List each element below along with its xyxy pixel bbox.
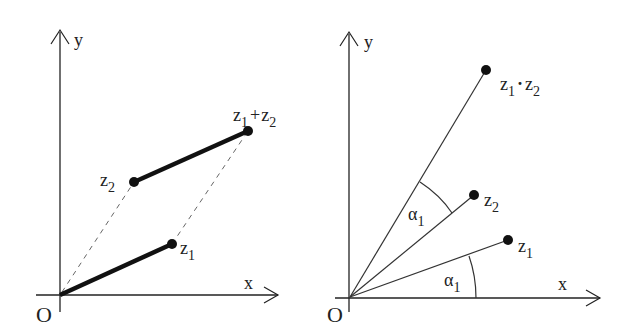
- label-z1: z1: [180, 238, 195, 263]
- point-product: [481, 65, 491, 75]
- label-sum: z1+z2: [233, 105, 276, 130]
- vector-z2-translated: [134, 131, 248, 182]
- label-product: z1·z2: [500, 74, 540, 99]
- angle-arc-upper: [420, 182, 452, 213]
- angle-label-lower: α1: [444, 270, 460, 295]
- vector-z1: [60, 244, 172, 295]
- x-axis-label: x: [558, 274, 567, 294]
- angle-arc-lower: [469, 256, 476, 298]
- origin-label: O: [36, 302, 52, 327]
- point-z2: [469, 190, 479, 200]
- ray-product: [350, 70, 486, 297]
- x-axis-label: x: [244, 273, 253, 293]
- label-z2: z2: [484, 190, 499, 215]
- label-z1: z1: [518, 236, 533, 261]
- complex-numbers-diagram: y x O z2 z1 z1+z2 y x O z1·z2 z2 z1 α1 α…: [0, 0, 634, 330]
- multiplication-diagram: y x O z1·z2 z2 z1 α1 α1: [327, 32, 600, 327]
- point-z2: [129, 177, 139, 187]
- angle-label-upper: α1: [408, 204, 424, 229]
- point-z1: [503, 235, 513, 245]
- y-axis-label: y: [364, 32, 373, 52]
- ray-z1: [350, 240, 508, 297]
- origin-label: O: [327, 302, 343, 327]
- y-axis-label: y: [74, 30, 83, 50]
- label-z2: z2: [100, 170, 115, 195]
- point-z1: [167, 239, 177, 249]
- addition-diagram: y x O z2 z1 z1+z2: [36, 30, 278, 327]
